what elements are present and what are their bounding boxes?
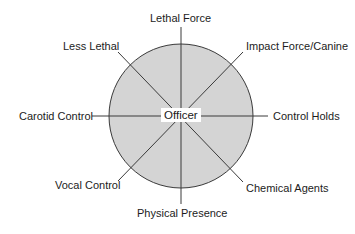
- force-options-diagram: Officer Lethal Force Impact Force/Canine…: [0, 0, 355, 234]
- label-impact-force-canine: Impact Force/Canine: [246, 40, 348, 52]
- center-label-officer: Officer: [161, 108, 201, 122]
- label-lethal-force: Lethal Force: [150, 12, 211, 24]
- label-carotid-control: Carotid Control: [19, 110, 93, 122]
- label-chemical-agents: Chemical Agents: [246, 182, 329, 194]
- label-less-lethal: Less Lethal: [63, 40, 119, 52]
- label-physical-presence: Physical Presence: [137, 207, 228, 219]
- label-vocal-control: Vocal Control: [55, 179, 120, 191]
- label-control-holds: Control Holds: [273, 110, 340, 122]
